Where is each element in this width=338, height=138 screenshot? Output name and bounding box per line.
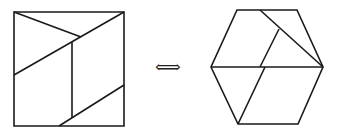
equivalence-arrow-icon: ⟺ (150, 57, 186, 77)
hexagon-shape (211, 10, 323, 124)
hexagon-cut-line (260, 29, 279, 67)
square-shape (14, 12, 124, 126)
hexagon-cut-line (260, 10, 323, 67)
square-cut-line (14, 12, 81, 37)
hexagon-cut-line (238, 67, 265, 124)
square-outline (14, 12, 124, 126)
square-cut-line (59, 85, 124, 126)
square-cut-line (14, 12, 124, 75)
